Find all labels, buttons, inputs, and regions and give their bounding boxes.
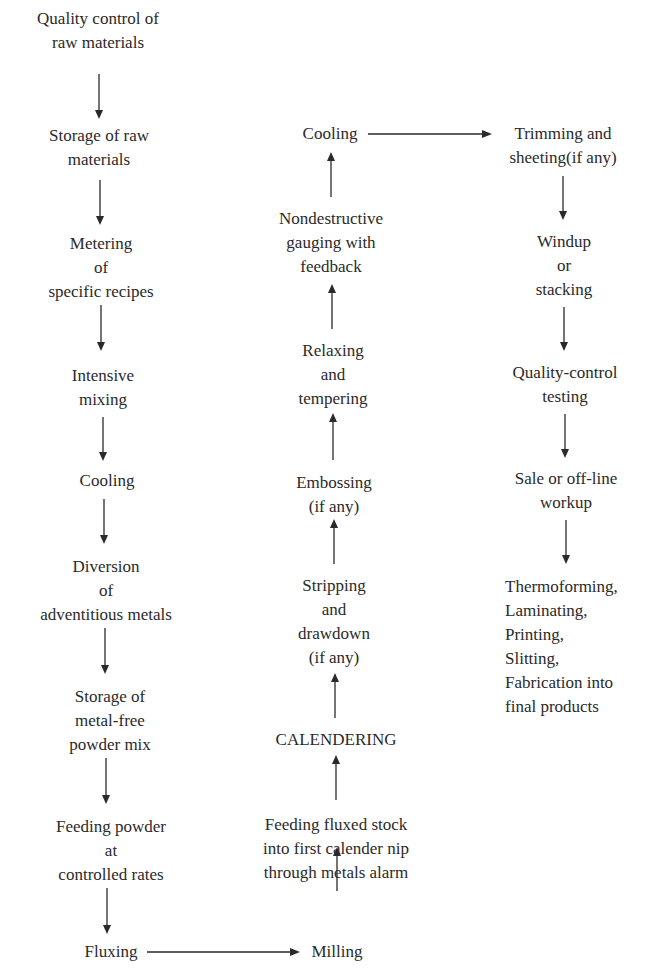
- node-line: workup: [515, 491, 618, 515]
- node-line: Stripping: [298, 574, 370, 598]
- node-line: feedback: [279, 255, 383, 279]
- node-embossing: Embossing (if any): [296, 471, 372, 519]
- node-line: Metering: [48, 232, 153, 256]
- node-line: testing: [513, 385, 618, 409]
- node-line: Embossing: [296, 471, 372, 495]
- node-relaxing: Relaxing and tempering: [299, 339, 368, 411]
- node-line: Storage of: [69, 685, 151, 709]
- node-trimming: Trimming and sheeting(if any): [509, 122, 616, 170]
- node-line: Relaxing: [299, 339, 368, 363]
- node-qc-testing: Quality-control testing: [513, 361, 618, 409]
- arrow-down-icon: [97, 305, 105, 351]
- node-line: Milling: [311, 940, 362, 964]
- node-diversion: Diversion of adventitious metals: [40, 555, 172, 627]
- node-line: and: [298, 598, 370, 622]
- arrow-down-icon: [562, 520, 570, 564]
- arrow-down-icon: [95, 74, 103, 119]
- node-cooling-1: Cooling: [80, 469, 135, 493]
- node-line: Fabrication into: [505, 671, 618, 695]
- arrow-down-icon: [561, 414, 569, 458]
- node-line: Feeding powder: [56, 815, 166, 839]
- arrow-down-icon: [103, 888, 111, 934]
- arrow-down-icon: [101, 628, 109, 674]
- node-mixing: Intensive mixing: [72, 364, 134, 412]
- arrow-down-icon: [102, 758, 110, 804]
- node-line: controlled rates: [56, 863, 166, 887]
- node-line: of: [48, 256, 153, 280]
- arrow-down-icon: [96, 180, 104, 225]
- node-windup: Windup or stacking: [536, 230, 593, 302]
- node-line: tempering: [299, 387, 368, 411]
- node-line: Windup: [536, 230, 593, 254]
- arrow-up-icon: [332, 755, 340, 800]
- node-line: mixing: [72, 388, 134, 412]
- node-storage-raw: Storage of raw materials: [49, 124, 149, 172]
- node-cooling-2: Cooling: [303, 122, 358, 146]
- node-final: Thermoforming, Laminating, Printing, Sli…: [505, 575, 618, 719]
- node-feeding-stock: Feeding fluxed stock into first calender…: [263, 813, 409, 885]
- node-line: gauging with: [279, 231, 383, 255]
- node-line: Quality control of: [37, 7, 159, 31]
- node-line: at: [56, 839, 166, 863]
- node-line: materials: [49, 148, 149, 172]
- node-fluxing: Fluxing: [85, 940, 138, 964]
- node-feeding-powder: Feeding powder at controlled rates: [56, 815, 166, 887]
- arrow-right-icon: [147, 948, 300, 956]
- node-line: Thermoforming,: [505, 575, 618, 599]
- node-line: final products: [505, 695, 618, 719]
- node-sale: Sale or off-line workup: [515, 467, 618, 515]
- arrow-up-icon: [328, 284, 336, 329]
- arrow-up-icon: [330, 519, 338, 564]
- node-line: Storage of raw: [49, 124, 149, 148]
- node-line: through metals alarm: [263, 861, 409, 885]
- node-line: metal-free: [69, 709, 151, 733]
- node-calendering: CALENDERING: [276, 728, 397, 752]
- node-line: Printing,: [505, 623, 618, 647]
- node-storage-powder: Storage of metal-free powder mix: [69, 685, 151, 757]
- node-gauging: Nondestructive gauging with feedback: [279, 207, 383, 279]
- node-line: and: [299, 363, 368, 387]
- node-line: raw materials: [37, 31, 159, 55]
- node-line: Nondestructive: [279, 207, 383, 231]
- node-line: or: [536, 254, 593, 278]
- node-line: (if any): [296, 495, 372, 519]
- node-line: drawdown: [298, 622, 370, 646]
- node-line: Cooling: [80, 469, 135, 493]
- node-line: into first calender nip: [263, 837, 409, 861]
- node-line: of: [40, 579, 172, 603]
- node-line: Slitting,: [505, 647, 618, 671]
- node-line: (if any): [298, 646, 370, 670]
- node-stripping: Stripping and drawdown (if any): [298, 574, 370, 670]
- node-line: Laminating,: [505, 599, 618, 623]
- arrow-down-icon: [99, 417, 107, 461]
- node-milling: Milling: [311, 940, 362, 964]
- node-line: CALENDERING: [276, 728, 397, 752]
- arrow-right-icon: [368, 130, 492, 138]
- node-line: stacking: [536, 278, 593, 302]
- node-line: Intensive: [72, 364, 134, 388]
- arrow-down-icon: [100, 499, 108, 544]
- arrow-up-icon: [331, 673, 339, 718]
- node-line: specific recipes: [48, 280, 153, 304]
- node-qc-raw: Quality control of raw materials: [37, 7, 159, 55]
- node-line: Quality-control: [513, 361, 618, 385]
- node-line: Feeding fluxed stock: [263, 813, 409, 837]
- node-line: Cooling: [303, 122, 358, 146]
- node-line: Diversion: [40, 555, 172, 579]
- arrow-down-icon: [559, 176, 567, 220]
- arrow-up-icon: [327, 152, 335, 197]
- node-line: adventitious metals: [40, 603, 172, 627]
- node-line: Sale or off-line: [515, 467, 618, 491]
- arrow-up-icon: [329, 413, 337, 460]
- node-line: powder mix: [69, 733, 151, 757]
- node-line: Trimming and: [509, 122, 616, 146]
- arrow-down-icon: [560, 307, 568, 351]
- node-metering: Metering of specific recipes: [48, 232, 153, 304]
- node-line: Fluxing: [85, 940, 138, 964]
- node-line: sheeting(if any): [509, 146, 616, 170]
